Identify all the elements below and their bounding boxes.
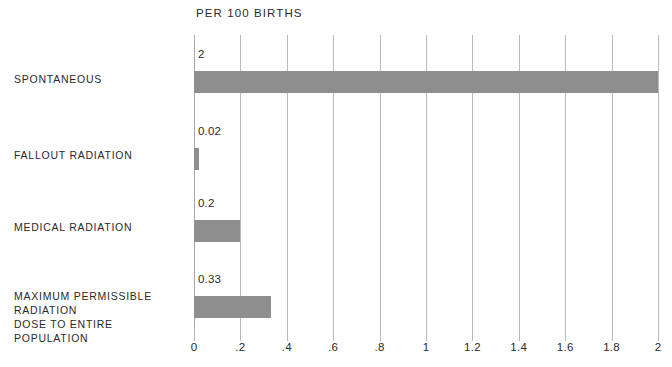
plot-area <box>194 35 658 330</box>
axis-tick <box>658 330 659 341</box>
x-tick-label: 1.8 <box>603 341 620 353</box>
x-tick-label: .8 <box>374 341 384 353</box>
x-tick-label: 1.4 <box>510 341 527 353</box>
x-tick-label: 1.2 <box>464 341 481 353</box>
axis-tick <box>612 330 613 341</box>
axis-tick <box>333 330 334 341</box>
axis-tick <box>287 330 288 341</box>
bar <box>194 220 240 242</box>
axis-tick <box>426 330 427 341</box>
x-tick-label: 2 <box>655 341 662 353</box>
axis-tick <box>194 330 195 341</box>
x-tick-label: .4 <box>282 341 292 353</box>
chart-title: PER 100 BIRTHS <box>196 7 303 19</box>
bar-value-label: 2 <box>198 48 205 60</box>
x-tick-label: 1 <box>423 341 430 353</box>
axis-tick <box>565 330 566 341</box>
bar-value-label: 0.02 <box>198 125 221 137</box>
axis-tick <box>472 330 473 341</box>
category-label: MEDICAL RADIATION <box>14 220 190 234</box>
gridline <box>658 35 659 330</box>
category-label: FALLOUT RADIATION <box>14 148 190 162</box>
x-tick-label: 0 <box>191 341 198 353</box>
x-tick-label: 1.6 <box>557 341 574 353</box>
x-tick-label: .2 <box>235 341 245 353</box>
bar-value-label: 0.33 <box>198 273 221 285</box>
bar <box>194 296 271 318</box>
bar <box>194 71 658 93</box>
axis-tick <box>380 330 381 341</box>
bar-chart: PER 100 BIRTHS SPONTANEOUSFALLOUT RADIAT… <box>0 0 672 367</box>
axis-tick <box>519 330 520 341</box>
bar-value-label: 0.2 <box>198 197 215 209</box>
bar <box>194 148 199 170</box>
x-tick-label: .6 <box>328 341 338 353</box>
category-label: MAXIMUM PERMISSIBLE RADIATION DOSE TO EN… <box>14 289 190 345</box>
axis-tick <box>240 330 241 341</box>
category-label: SPONTANEOUS <box>14 72 190 86</box>
